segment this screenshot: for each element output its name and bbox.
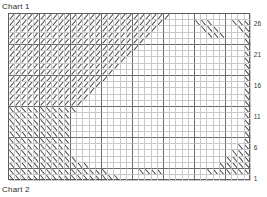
left-leaning-decrease-icon bbox=[59, 163, 65, 169]
right-leaning-decrease-icon bbox=[71, 95, 77, 101]
right-leaning-decrease-icon bbox=[9, 101, 15, 107]
right-leaning-decrease-icon bbox=[71, 26, 77, 32]
right-leaning-decrease-icon bbox=[21, 88, 27, 94]
left-leaning-decrease-icon bbox=[65, 107, 71, 113]
right-leaning-decrease-icon bbox=[139, 26, 145, 32]
right-leaning-decrease-icon bbox=[96, 57, 102, 63]
right-leaning-decrease-icon bbox=[127, 39, 133, 45]
left-leaning-decrease-icon bbox=[214, 169, 220, 175]
chart-cell[interactable] bbox=[245, 175, 251, 181]
left-leaning-decrease-icon bbox=[245, 26, 251, 32]
right-leaning-decrease-icon bbox=[121, 45, 127, 51]
right-leaning-decrease-icon bbox=[28, 26, 34, 32]
right-leaning-decrease-icon bbox=[90, 82, 96, 88]
right-leaning-decrease-icon bbox=[90, 51, 96, 57]
right-leaning-decrease-icon bbox=[52, 20, 58, 26]
right-leaning-decrease-icon bbox=[65, 26, 71, 32]
right-leaning-decrease-icon bbox=[9, 33, 15, 39]
right-leaning-decrease-icon bbox=[77, 64, 83, 70]
right-leaning-decrease-icon bbox=[102, 26, 108, 32]
left-leaning-decrease-icon bbox=[46, 169, 52, 175]
left-leaning-decrease-icon bbox=[28, 157, 34, 163]
right-leaning-decrease-icon bbox=[114, 20, 120, 26]
left-leaning-decrease-icon bbox=[40, 157, 46, 163]
right-leaning-decrease-icon bbox=[46, 20, 52, 26]
right-leaning-decrease-icon bbox=[96, 45, 102, 51]
right-leaning-decrease-icon bbox=[145, 20, 151, 26]
right-leaning-decrease-icon bbox=[15, 20, 21, 26]
right-leaning-decrease-icon bbox=[34, 39, 40, 45]
right-leaning-decrease-icon bbox=[28, 95, 34, 101]
right-leaning-decrease-icon bbox=[15, 39, 21, 45]
left-leaning-decrease-icon bbox=[245, 132, 251, 138]
right-leaning-decrease-icon bbox=[9, 51, 15, 57]
left-leaning-decrease-icon bbox=[28, 175, 34, 181]
left-leaning-decrease-icon bbox=[245, 88, 251, 94]
right-leaning-decrease-icon bbox=[96, 33, 102, 39]
right-leaning-decrease-icon bbox=[83, 14, 89, 20]
right-leaning-decrease-icon bbox=[65, 64, 71, 70]
knitting-chart-grid[interactable] bbox=[8, 13, 250, 180]
right-leaning-decrease-icon bbox=[59, 45, 65, 51]
left-leaning-decrease-icon bbox=[245, 39, 251, 45]
right-leaning-decrease-icon bbox=[46, 45, 52, 51]
right-leaning-decrease-icon bbox=[133, 39, 139, 45]
right-leaning-decrease-icon bbox=[21, 101, 27, 107]
right-leaning-decrease-icon bbox=[133, 20, 139, 26]
right-leaning-decrease-icon bbox=[46, 76, 52, 82]
left-leaning-decrease-icon bbox=[15, 169, 21, 175]
left-leaning-decrease-icon bbox=[83, 169, 89, 175]
right-leaning-decrease-icon bbox=[52, 51, 58, 57]
left-leaning-decrease-icon bbox=[15, 126, 21, 132]
right-leaning-decrease-icon bbox=[21, 57, 27, 63]
left-leaning-decrease-icon bbox=[9, 169, 15, 175]
right-leaning-decrease-icon bbox=[71, 20, 77, 26]
left-leaning-decrease-icon bbox=[245, 119, 251, 125]
left-leaning-decrease-icon bbox=[96, 175, 102, 181]
right-leaning-decrease-icon bbox=[145, 14, 151, 20]
left-leaning-decrease-icon bbox=[28, 107, 34, 113]
right-leaning-decrease-icon bbox=[83, 26, 89, 32]
left-leaning-decrease-icon bbox=[77, 169, 83, 175]
left-leaning-decrease-icon bbox=[21, 144, 27, 150]
left-leaning-decrease-icon bbox=[40, 107, 46, 113]
knitting-chart-grid-wrapper[interactable] bbox=[8, 13, 250, 180]
right-leaning-decrease-icon bbox=[46, 88, 52, 94]
left-leaning-decrease-icon bbox=[77, 175, 83, 181]
left-leaning-decrease-icon bbox=[52, 169, 58, 175]
right-leaning-decrease-icon bbox=[9, 39, 15, 45]
right-leaning-decrease-icon bbox=[9, 88, 15, 94]
right-leaning-decrease-icon bbox=[77, 45, 83, 51]
left-leaning-decrease-icon bbox=[9, 132, 15, 138]
right-leaning-decrease-icon bbox=[46, 14, 52, 20]
right-leaning-decrease-icon bbox=[28, 82, 34, 88]
right-leaning-decrease-icon bbox=[46, 33, 52, 39]
left-leaning-decrease-icon bbox=[207, 169, 213, 175]
right-leaning-decrease-icon bbox=[102, 57, 108, 63]
left-leaning-decrease-icon bbox=[34, 126, 40, 132]
left-leaning-decrease-icon bbox=[9, 163, 15, 169]
right-leaning-decrease-icon bbox=[40, 88, 46, 94]
right-leaning-decrease-icon bbox=[52, 45, 58, 51]
right-leaning-decrease-icon bbox=[59, 88, 65, 94]
right-leaning-decrease-icon bbox=[9, 14, 15, 20]
right-leaning-decrease-icon bbox=[108, 33, 114, 39]
left-leaning-decrease-icon bbox=[15, 175, 21, 181]
right-leaning-decrease-icon bbox=[59, 20, 65, 26]
left-leaning-decrease-icon bbox=[34, 150, 40, 156]
left-leaning-decrease-icon bbox=[15, 144, 21, 150]
right-leaning-decrease-icon bbox=[15, 88, 21, 94]
left-leaning-decrease-icon bbox=[158, 169, 164, 175]
right-leaning-decrease-icon bbox=[21, 70, 27, 76]
left-leaning-decrease-icon bbox=[245, 95, 251, 101]
right-leaning-decrease-icon bbox=[65, 70, 71, 76]
left-leaning-decrease-icon bbox=[52, 113, 58, 119]
left-leaning-decrease-icon bbox=[52, 119, 58, 125]
right-leaning-decrease-icon bbox=[21, 14, 27, 20]
left-leaning-decrease-icon bbox=[245, 107, 251, 113]
right-leaning-decrease-icon bbox=[83, 39, 89, 45]
left-leaning-decrease-icon bbox=[21, 163, 27, 169]
left-leaning-decrease-icon bbox=[21, 150, 27, 156]
right-leaning-decrease-icon bbox=[15, 33, 21, 39]
right-leaning-decrease-icon bbox=[83, 64, 89, 70]
